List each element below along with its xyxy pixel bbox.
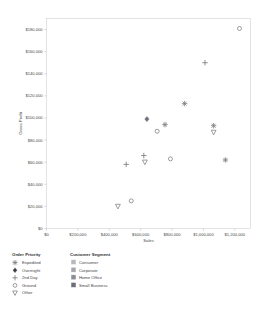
legend-item-expedited[interactable]: Expedited	[22, 260, 41, 265]
legend-item-consumer[interactable]: Consumer	[79, 260, 99, 265]
legend-title-order-priority: Order Priority	[12, 252, 41, 257]
data-point[interactable]	[129, 199, 133, 203]
y-axis-tick-group: $0$20,000$40,000$60,000$80,000$100,000$1…	[25, 27, 46, 231]
x-axis-title: Sales	[143, 238, 154, 243]
data-point[interactable]	[155, 129, 159, 133]
legend-item-corporate[interactable]: Corporate	[79, 268, 98, 273]
circle-marker	[13, 284, 17, 288]
x-tick-label: $600,000	[132, 232, 150, 237]
data-point[interactable]	[182, 101, 187, 106]
y-tick-label: $140,000	[25, 71, 43, 76]
data-point[interactable]	[211, 123, 216, 128]
triangle-down-marker	[142, 160, 147, 165]
x-tick-label: $400,000	[101, 232, 119, 237]
legend-item-small-business[interactable]: Small Business	[79, 283, 108, 288]
data-point[interactable]	[168, 157, 172, 161]
star-marker	[162, 122, 167, 127]
data-point[interactable]	[211, 130, 216, 135]
legend-order-priority: Order PriorityExpeditedOvernight2nd DayG…	[12, 252, 41, 295]
plus-marker	[141, 153, 146, 158]
circle-marker	[129, 199, 133, 203]
x-axis-tick-group: $0$200,000$400,000$600,000$800,000$1,000…	[44, 229, 246, 238]
y-tick-label: $160,000	[25, 49, 43, 54]
data-point[interactable]	[115, 204, 120, 209]
legend-swatch	[71, 275, 76, 280]
legend-title-customer-segment: Customer Segment	[70, 252, 111, 257]
legend-item-overnight[interactable]: Overnight	[22, 268, 41, 273]
data-point[interactable]	[202, 60, 207, 65]
y-tick-label: $100,000	[25, 115, 43, 120]
legend-item-home-office[interactable]: Home Office	[79, 275, 103, 280]
x-tick-label: $0	[44, 232, 49, 237]
data-point[interactable]	[123, 162, 128, 167]
legend-item-2nd-day[interactable]: 2nd Day	[22, 275, 39, 280]
triangle-down-marker	[115, 204, 120, 209]
y-tick-label: $20,000	[28, 204, 44, 209]
scatter-chart: $0$20,000$40,000$60,000$80,000$100,000$1…	[0, 0, 267, 323]
y-axis-title: Gross Profit	[18, 111, 23, 134]
legend-swatch	[71, 267, 76, 272]
star-marker	[211, 123, 216, 128]
diamond-marker	[13, 268, 17, 273]
y-tick-label: $180,000	[25, 27, 43, 32]
legend-swatch	[71, 282, 76, 287]
plus-marker	[202, 60, 207, 65]
triangle-down-marker	[13, 291, 18, 295]
star-marker	[12, 260, 17, 265]
y-tick-label: $60,000	[28, 160, 44, 165]
legend-customer-segment: Customer SegmentConsumerCorporateHome Of…	[70, 252, 111, 288]
diamond-marker	[145, 116, 149, 121]
y-tick-label: $120,000	[25, 93, 43, 98]
data-points-layer	[115, 26, 241, 208]
star-marker	[182, 101, 187, 106]
triangle-down-marker	[211, 130, 216, 135]
y-tick-label: $80,000	[28, 138, 44, 143]
plot-frame	[47, 19, 251, 229]
circle-marker	[155, 129, 159, 133]
x-tick-label: $200,000	[69, 232, 87, 237]
circle-marker	[168, 157, 172, 161]
legend-item-ground[interactable]: Ground	[22, 283, 37, 288]
legend-item-other[interactable]: Other	[22, 290, 33, 295]
x-tick-label: $1,000,000	[193, 232, 214, 237]
circle-marker	[238, 26, 242, 30]
data-point[interactable]	[141, 153, 146, 158]
legend-swatch	[71, 260, 76, 265]
data-point[interactable]	[223, 157, 228, 162]
star-marker	[223, 157, 228, 162]
plus-marker	[123, 162, 128, 167]
data-point[interactable]	[162, 122, 167, 127]
y-tick-label: $0	[38, 226, 43, 231]
data-point[interactable]	[145, 116, 149, 121]
data-point[interactable]	[238, 26, 242, 30]
plus-marker	[12, 275, 17, 280]
x-tick-label: $800,000	[163, 232, 181, 237]
y-tick-label: $40,000	[28, 182, 44, 187]
x-tick-label: $1,200,000	[225, 232, 246, 237]
data-point[interactable]	[142, 160, 147, 165]
